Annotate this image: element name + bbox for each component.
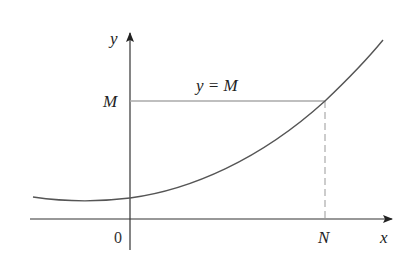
y-axis-label: y	[108, 29, 118, 48]
line-equation-label: y = M	[194, 76, 239, 95]
function-curve	[33, 40, 383, 201]
diagram-canvas: y x 0 M N y = M	[0, 0, 414, 270]
origin-label: 0	[114, 229, 122, 246]
m-tick-label: M	[102, 92, 118, 111]
n-tick-label: N	[317, 228, 331, 247]
x-axis-label: x	[379, 228, 388, 247]
